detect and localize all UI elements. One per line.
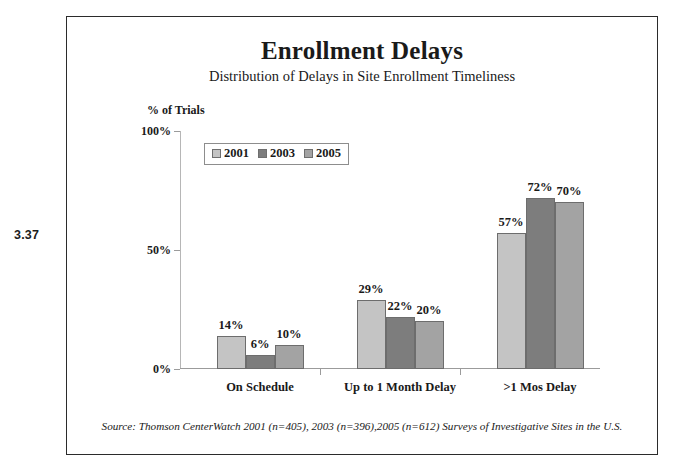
- y-tick-label-100: 100%: [141, 124, 171, 139]
- bar-rect: [526, 198, 555, 369]
- bar-rect: [275, 345, 304, 369]
- bar-value-label: 22%: [388, 299, 413, 314]
- bar-value-label: 14%: [219, 318, 244, 333]
- bar-rect: [555, 202, 584, 369]
- bar-2003-on-schedule[interactable]: 6%: [246, 355, 275, 369]
- bar-group-0: 14%6%10%On Schedule: [217, 336, 304, 369]
- bar-value-label: 72%: [528, 180, 553, 195]
- bar-value-label: 29%: [359, 282, 384, 297]
- bar-2001--1-mos-delay[interactable]: 57%: [497, 233, 526, 369]
- bar-2005-up-to-1-month-delay[interactable]: 20%: [415, 321, 444, 369]
- bar-2005-on-schedule[interactable]: 10%: [275, 345, 304, 369]
- y-tick-50: [174, 250, 180, 251]
- bar-rect: [217, 336, 246, 369]
- plot-area: 0%50%100% 14%6%10%On Schedule29%22%20%Up…: [180, 131, 600, 369]
- bar-value-label: 6%: [251, 337, 270, 352]
- bar-group-2: 57%72%70%>1 Mos Delay: [497, 198, 584, 369]
- bar-rect: [357, 300, 386, 369]
- bar-2001-on-schedule[interactable]: 14%: [217, 336, 246, 369]
- bar-value-label: 20%: [417, 303, 442, 318]
- y-tick-label-50: 50%: [147, 243, 171, 258]
- figure-number: 3.37: [14, 228, 39, 242]
- chart-title: Enrollment Delays: [67, 37, 657, 65]
- bar-value-label: 70%: [557, 184, 582, 199]
- bar-value-label: 10%: [277, 327, 302, 342]
- category-label-0: On Schedule: [226, 380, 294, 395]
- x-tick-2: [460, 369, 461, 375]
- source-note: Source: Thomson CenterWatch 2001 (n=405)…: [67, 420, 657, 432]
- chart-subtitle: Distribution of Delays in Site Enrollmen…: [67, 68, 657, 85]
- x-tick-1: [320, 369, 321, 375]
- y-tick-100: [174, 131, 180, 132]
- bar-2003--1-mos-delay[interactable]: 72%: [526, 198, 555, 369]
- chart-figure-frame: Enrollment Delays Distribution of Delays…: [66, 16, 658, 455]
- bar-rect: [497, 233, 526, 369]
- bar-group-1: 29%22%20%Up to 1 Month Delay: [357, 300, 444, 369]
- y-tick-0: [174, 369, 180, 370]
- y-axis-line: [180, 131, 181, 369]
- bar-value-label: 57%: [499, 215, 524, 230]
- bar-rect: [386, 317, 415, 369]
- bar-rect: [415, 321, 444, 369]
- y-axis-title: % of Trials: [147, 103, 205, 118]
- bar-2001-up-to-1-month-delay[interactable]: 29%: [357, 300, 386, 369]
- bar-2003-up-to-1-month-delay[interactable]: 22%: [386, 317, 415, 369]
- category-label-2: >1 Mos Delay: [503, 380, 576, 395]
- bar-2005--1-mos-delay[interactable]: 70%: [555, 202, 584, 369]
- y-tick-label-0: 0%: [153, 362, 171, 377]
- bar-rect: [246, 355, 275, 369]
- category-label-1: Up to 1 Month Delay: [344, 380, 456, 395]
